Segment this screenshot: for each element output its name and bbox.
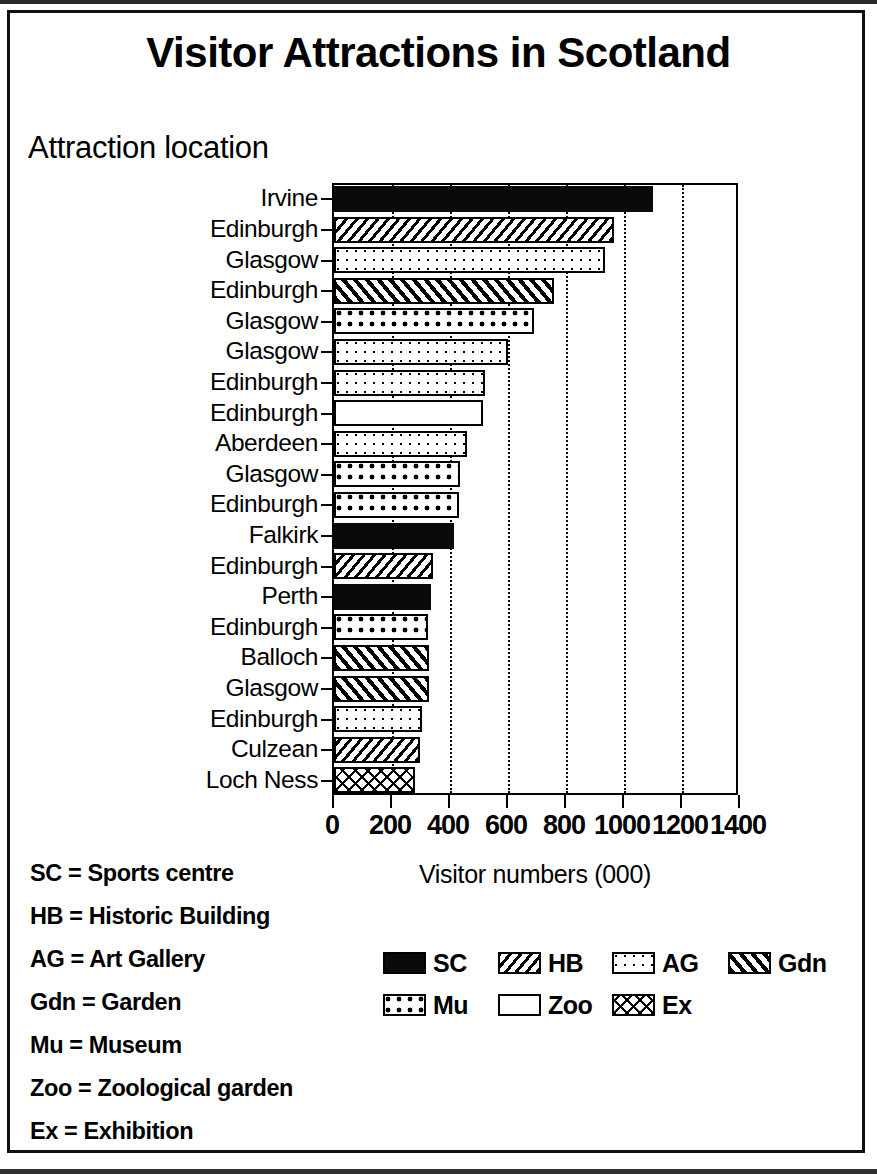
y-tick-label: Loch Ness — [18, 768, 318, 793]
x-tick-mark — [332, 795, 334, 808]
y-tick-mark — [321, 198, 332, 200]
y-tick-mark — [321, 290, 332, 292]
y-tick-label: Glasgow — [18, 309, 318, 334]
legend-swatch-ex — [612, 994, 655, 1016]
y-tick-mark — [321, 413, 332, 415]
bar-edinburgh-mu — [334, 492, 459, 518]
y-tick-label: Irvine — [18, 186, 318, 211]
y-tick-mark — [321, 780, 332, 782]
y-tick-mark — [321, 504, 332, 506]
legend-swatch-sc — [383, 952, 426, 974]
y-tick-label: Edinburgh — [18, 707, 318, 732]
key-item-sc: SC = Sports centre — [30, 862, 360, 886]
y-tick-label: Edinburgh — [18, 278, 318, 303]
key-item-ag: AG = Art Gallery — [30, 948, 360, 972]
bar-edinburgh-ag — [334, 370, 485, 396]
y-tick-mark — [321, 688, 332, 690]
x-axis-tick-labels: 0200400600800100012001400 — [0, 812, 877, 852]
y-tick-mark — [321, 749, 332, 751]
y-tick-mark — [321, 351, 332, 353]
y-tick-mark — [321, 657, 332, 659]
legend-entry-ag: AG — [612, 946, 699, 980]
key-item-gdn: Gdn = Garden — [30, 991, 360, 1015]
legend-swatch-ag — [612, 952, 655, 974]
legend-swatch-zoo — [498, 994, 541, 1016]
y-tick-label: Edinburgh — [18, 554, 318, 579]
bar-edinburgh-hb — [334, 553, 433, 579]
legend-label-mu: Mu — [433, 993, 468, 1018]
y-tick-mark — [321, 382, 332, 384]
legend-entry-gdn: Gdn — [728, 946, 827, 980]
bar-glasgow-gdn — [334, 676, 429, 702]
y-tick-mark — [321, 596, 332, 598]
bar-edinburgh-gdn — [334, 278, 554, 304]
bar-edinburgh-ag — [334, 706, 422, 732]
legend-swatch-mu — [383, 994, 426, 1016]
y-tick-label: Glasgow — [18, 339, 318, 364]
y-tick-label: Perth — [18, 584, 318, 609]
legend-swatch-hb — [498, 952, 541, 974]
y-tick-mark — [321, 321, 332, 323]
legend-label-zoo: Zoo — [548, 993, 592, 1018]
legend-label-hb: HB — [548, 951, 583, 976]
bar-culzean-hb — [334, 737, 420, 763]
y-tick-label: Edinburgh — [18, 401, 318, 426]
y-tick-label: Glasgow — [18, 676, 318, 701]
chart-page: Visitor Attractions in Scotland Attracti… — [0, 0, 877, 1174]
bar-series — [334, 185, 736, 793]
legend-swatch-gdn — [728, 952, 771, 974]
legend-label-gdn: Gdn — [778, 951, 827, 976]
bar-glasgow-ag — [334, 247, 605, 273]
bar-edinburgh-hb — [334, 217, 614, 243]
x-tick-mark — [738, 795, 740, 808]
key-item-zoo: Zoo = Zoological garden — [30, 1077, 360, 1101]
bar-balloch-gdn — [334, 645, 429, 671]
y-tick-label: Edinburgh — [18, 370, 318, 395]
legend-row: MuZooEx — [383, 988, 803, 1030]
chart-legend: SCHBAGGdnMuZooEx — [383, 946, 803, 1030]
legend-label-sc: SC — [433, 951, 467, 976]
legend-entry-mu: Mu — [383, 988, 468, 1022]
key-item-hb: HB = Historic Building — [30, 905, 360, 929]
y-tick-label: Balloch — [18, 645, 318, 670]
x-tick-mark — [680, 795, 682, 808]
y-tick-label: Edinburgh — [18, 217, 318, 242]
bar-perth-sc — [334, 584, 431, 610]
bar-edinburgh-mu — [334, 614, 428, 640]
legend-entry-ex: Ex — [612, 988, 692, 1022]
y-tick-mark — [321, 627, 332, 629]
x-tick-mark — [390, 795, 392, 808]
y-tick-mark — [321, 474, 332, 476]
bar-edinburgh-zoo — [334, 400, 483, 426]
plot-area — [332, 183, 738, 795]
y-axis-tick-labels: IrvineEdinburghGlasgowEdinburghGlasgowGl… — [0, 183, 332, 795]
x-tick-mark — [448, 795, 450, 808]
y-tick-label: Culzean — [18, 737, 318, 762]
key-item-ex: Ex = Exhibition — [30, 1120, 360, 1144]
y-tick-label: Edinburgh — [18, 492, 318, 517]
y-tick-label: Aberdeen — [18, 431, 318, 456]
bar-glasgow-mu — [334, 308, 534, 334]
legend-label-ex: Ex — [662, 993, 692, 1018]
y-tick-mark — [321, 535, 332, 537]
y-tick-label: Edinburgh — [18, 615, 318, 640]
legend-entry-zoo: Zoo — [498, 988, 592, 1022]
y-tick-label: Falkirk — [18, 523, 318, 548]
y-tick-label: Glasgow — [18, 248, 318, 273]
bar-irvine-sc — [334, 186, 653, 212]
legend-entry-hb: HB — [498, 946, 583, 980]
legend-label-ag: AG — [662, 951, 699, 976]
y-tick-mark — [321, 719, 332, 721]
y-tick-mark — [321, 260, 332, 262]
x-tick-mark — [506, 795, 508, 808]
x-tick-mark — [622, 795, 624, 808]
legend-entry-sc: SC — [383, 946, 467, 980]
x-tick-label: 1400 — [693, 812, 783, 839]
bar-aberdeen-ag — [334, 431, 467, 457]
bar-falkirk-sc — [334, 523, 454, 549]
y-tick-mark — [321, 443, 332, 445]
bar-glasgow-mu — [334, 461, 460, 487]
y-tick-mark — [321, 566, 332, 568]
x-axis-title: Visitor numbers (000) — [332, 860, 738, 889]
x-axis-ticks — [332, 795, 738, 809]
